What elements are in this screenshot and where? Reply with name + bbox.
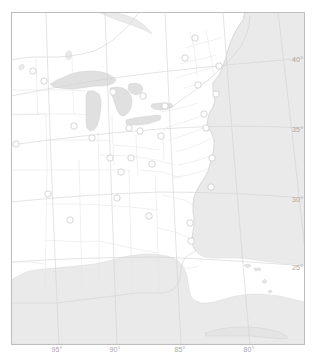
station-marker[interactable] <box>213 91 219 97</box>
station-marker[interactable] <box>162 103 168 109</box>
station-marker[interactable] <box>188 238 194 244</box>
station-marker[interactable] <box>201 111 207 117</box>
station-marker[interactable] <box>110 89 116 95</box>
station-marker[interactable] <box>146 213 152 219</box>
station-marker[interactable] <box>13 141 19 147</box>
station-marker[interactable] <box>30 68 36 74</box>
station-marker[interactable] <box>203 125 209 131</box>
station-marker[interactable] <box>149 161 155 167</box>
latitude-tick-label: 40° <box>292 56 303 63</box>
longitude-tick-label: 90° <box>106 346 124 353</box>
latitude-tick-label: 25° <box>292 264 303 271</box>
station-marker[interactable] <box>67 217 73 223</box>
longitude-tick-label: 85° <box>171 346 189 353</box>
station-marker[interactable] <box>158 133 164 139</box>
station-marker[interactable] <box>195 82 201 88</box>
station-marker[interactable] <box>41 78 47 84</box>
station-marker[interactable] <box>45 191 51 197</box>
map-canvas <box>0 0 318 364</box>
station-marker[interactable] <box>140 93 146 99</box>
station-marker[interactable] <box>128 155 134 161</box>
map-figure: 40°35°30°25° 95°90°85°80° <box>0 0 318 364</box>
station-marker[interactable] <box>89 135 95 141</box>
station-marker[interactable] <box>208 184 214 190</box>
station-marker[interactable] <box>118 169 124 175</box>
latitude-tick-label: 30° <box>292 196 303 203</box>
station-marker[interactable] <box>209 155 215 161</box>
station-marker[interactable] <box>187 220 193 226</box>
station-marker[interactable] <box>182 55 188 61</box>
station-marker[interactable] <box>114 195 120 201</box>
latitude-tick-label: 35° <box>292 126 303 133</box>
station-marker[interactable] <box>192 35 198 41</box>
station-marker[interactable] <box>107 155 113 161</box>
station-marker[interactable] <box>71 123 77 129</box>
longitude-tick-label: 80° <box>240 346 258 353</box>
longitude-tick-label: 95° <box>48 346 66 353</box>
station-marker[interactable] <box>126 125 132 131</box>
station-marker[interactable] <box>216 63 222 69</box>
station-marker[interactable] <box>137 128 143 134</box>
